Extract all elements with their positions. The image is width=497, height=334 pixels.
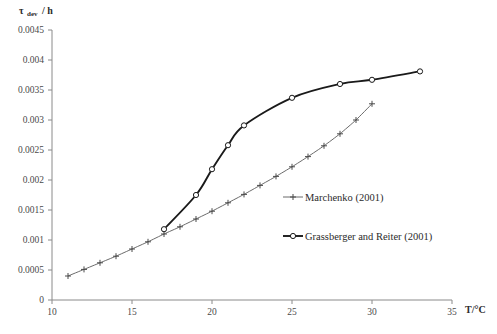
series-markers: [161, 69, 422, 232]
data-series-group: [65, 69, 423, 279]
x-axis-title: T/°C: [465, 304, 486, 315]
y-tick-label: 0: [39, 295, 44, 305]
chart-legend: Marchenko (2001)Grassberger and Reiter (…: [283, 192, 433, 243]
circle-marker-icon: [417, 69, 422, 74]
y-tick-label: 0.003: [23, 115, 45, 125]
x-tick-label: 15: [127, 307, 137, 317]
y-tick-label: 0.004: [23, 55, 45, 65]
y-axis-ticks: 00.00050.0010.00150.0020.00250.0030.0035…: [18, 25, 52, 305]
x-tick-label: 25: [287, 307, 297, 317]
circle-marker-icon: [290, 233, 295, 238]
x-tick-label: 20: [207, 307, 217, 317]
y-axis-title-unit: / h: [41, 5, 53, 16]
legend-label: Grassberger and Reiter (2001): [305, 231, 433, 243]
y-axis-title: τ: [19, 5, 24, 16]
x-tick-label: 30: [367, 307, 377, 317]
y-tick-label: 0.0015: [18, 205, 44, 215]
circle-marker-icon: [337, 81, 342, 86]
x-axis-ticks: 101520253035: [47, 300, 457, 317]
circle-marker-icon: [369, 77, 374, 82]
series-markers: [65, 101, 375, 279]
chart-figure: 00.00050.0010.00150.0020.00250.0030.0035…: [0, 0, 497, 334]
y-tick-label: 0.002: [23, 175, 45, 185]
series-line: [68, 104, 372, 276]
circle-marker-icon: [289, 95, 294, 100]
y-tick-label: 0.001: [23, 235, 45, 245]
y-tick-label: 0.0045: [18, 25, 44, 35]
y-tick-label: 0.0005: [18, 265, 44, 275]
y-tick-label: 0.0035: [18, 85, 44, 95]
y-tick-label: 0.0025: [18, 145, 44, 155]
circle-marker-icon: [161, 227, 166, 232]
circle-marker-icon: [193, 192, 198, 197]
x-tick-label: 35: [447, 307, 457, 317]
circle-marker-icon: [241, 123, 246, 128]
y-axis-title-subscript: dev: [27, 10, 38, 18]
circle-marker-icon: [209, 167, 214, 172]
chart-svg: 00.00050.0010.00150.0020.00250.0030.0035…: [0, 0, 497, 334]
x-tick-label: 10: [47, 307, 57, 317]
legend-label: Marchenko (2001): [305, 192, 384, 204]
circle-marker-icon: [225, 143, 230, 148]
